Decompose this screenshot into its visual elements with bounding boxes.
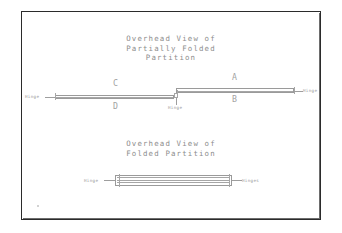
- folded-stack-leaf-line-3: [117, 182, 230, 183]
- hinge-right-label: Hinge: [303, 88, 317, 93]
- bottom-title-line-1: Overhead View of: [126, 139, 216, 148]
- hinge-left-label: Hinge: [25, 94, 39, 99]
- folded-hinges-right-label: Hinges: [242, 178, 259, 183]
- paper-speck: [37, 205, 39, 207]
- panel-cd-midline: [56, 97, 173, 98]
- hinge-left-leader: [45, 97, 55, 98]
- hinge-center-label: Hinge: [168, 105, 182, 110]
- folded-hinges-right-leader: [232, 180, 242, 181]
- center-hinge-top-tie: [174, 93, 178, 94]
- folded-hinge-left-label: Hinge: [84, 178, 98, 183]
- folded-stack-right-hinge-barrel: [229, 174, 230, 187]
- bottom-title-line-2: Folded Partition: [126, 149, 216, 158]
- top-diagram-title: Overhead View ofPartially FoldedPartitio…: [0, 34, 342, 63]
- top-title-line-1: Overhead View of: [126, 34, 216, 43]
- sketch-page: Overhead View ofPartially FoldedPartitio…: [0, 0, 342, 233]
- panel-label-a: A: [232, 73, 237, 82]
- top-title-line-2: Partially Folded: [126, 44, 216, 53]
- hinge-center-leader: [176, 98, 177, 105]
- panel-label-b: B: [232, 95, 237, 104]
- bottom-diagram-title: Overhead View ofFolded Partition: [0, 139, 342, 158]
- top-title-line-3: Partition: [146, 53, 196, 62]
- folded-hinge-left-leader: [104, 180, 115, 181]
- panel-label-c: C: [113, 79, 118, 88]
- panel-cd-left-endcap: [55, 93, 56, 100]
- center-hinge-connector-right: [177, 90, 178, 97]
- panel-label-d: D: [113, 102, 118, 111]
- folded-stack-leaf-line-1: [117, 177, 230, 178]
- folded-stack-left-hinge-barrel: [119, 174, 120, 187]
- panel-ab-midline: [177, 91, 293, 92]
- folded-stack-leaf-line-2: [117, 180, 230, 181]
- hinge-right-leader: [294, 91, 303, 92]
